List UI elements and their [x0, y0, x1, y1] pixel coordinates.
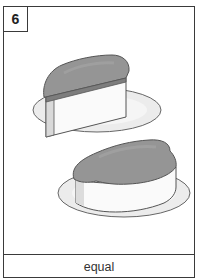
cake-slice-round-icon	[58, 140, 190, 217]
cake-slice-wedge-icon	[33, 55, 161, 137]
card-caption: equal	[4, 256, 194, 277]
cake-illustration	[4, 7, 194, 254]
caption-divider	[4, 254, 194, 255]
flashcard: 6 equal	[3, 6, 195, 278]
